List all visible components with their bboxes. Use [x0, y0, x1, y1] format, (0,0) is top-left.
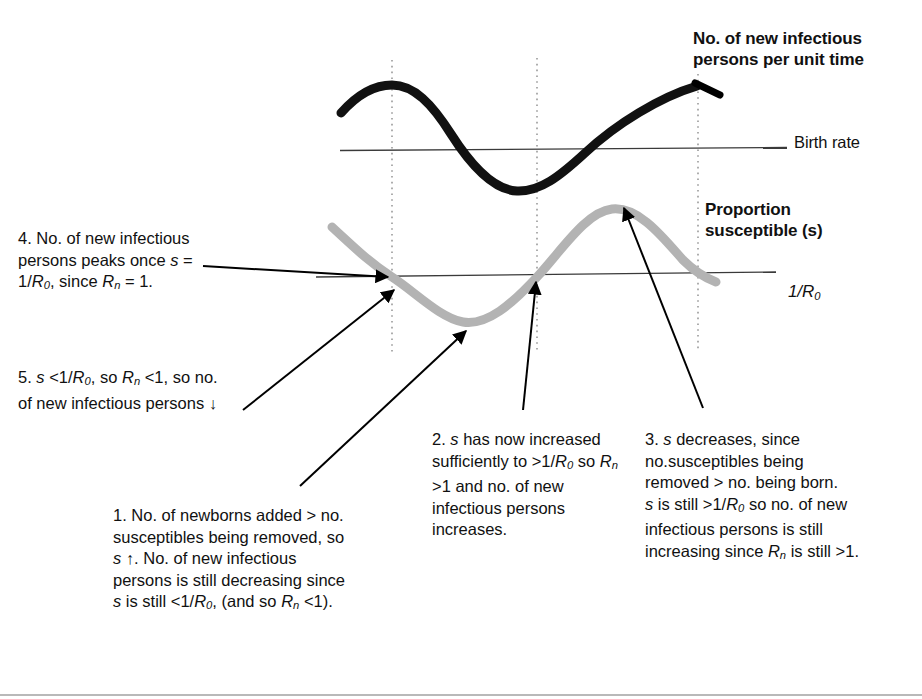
birth-rate-label: Birth rate — [794, 132, 860, 153]
annotation-note-3: 3. s decreases, since no.susceptibles be… — [645, 429, 861, 567]
annotation-note-5: 5. s <1/R0, so Rn <1, so no. of new infe… — [18, 367, 230, 414]
epidemic-cycle-diagram: No. of new infectious persons per unit t… — [0, 0, 922, 699]
annotation-note-4: 4. No. of new infectious persons peaks o… — [18, 228, 218, 297]
arrow-note-4 — [203, 266, 388, 277]
arrow-note-2 — [523, 282, 536, 410]
arrow-note-5 — [243, 290, 394, 410]
infectious-curve-label: No. of new infectious persons per unit t… — [693, 28, 864, 70]
proportion-susceptible-curve — [332, 209, 716, 323]
threshold-label-subscript: 0 — [814, 289, 820, 301]
birth-rate-line — [340, 148, 787, 151]
susceptible-curve-label: Proportion susceptible (s) — [705, 199, 823, 241]
threshold-label: 1/R0 — [788, 261, 820, 306]
annotation-note-2: 2. s has now increased sufficiently to >… — [432, 429, 632, 541]
page-bottom-divider — [0, 694, 922, 696]
new-infectious-persons-curve — [341, 85, 697, 191]
annotation-note-1: 1. No. of newborns added > no. susceptib… — [113, 505, 350, 617]
threshold-label-prefix: 1/R — [788, 282, 814, 301]
